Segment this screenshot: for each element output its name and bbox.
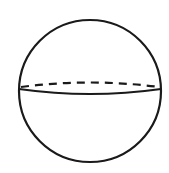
equator-back-dashed <box>21 83 159 88</box>
equator-front-solid <box>19 89 161 94</box>
sphere-diagram <box>0 0 169 173</box>
sphere-figure <box>0 0 169 173</box>
